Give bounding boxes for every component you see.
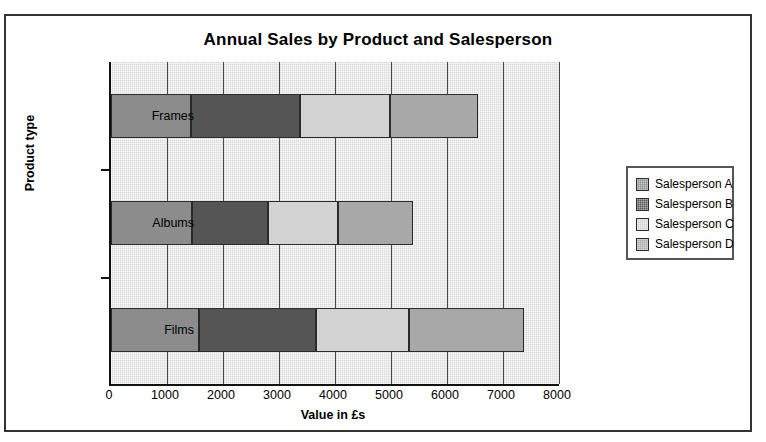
- bar-segment-albums-c[interactable]: [268, 201, 338, 245]
- bar-segment-films-c[interactable]: [316, 308, 410, 352]
- bar-segment-films-b[interactable]: [199, 308, 315, 352]
- y-tick-label-films: Films: [74, 323, 194, 337]
- x-tick-label-8000: 8000: [543, 388, 571, 402]
- legend-item-c[interactable]: Salesperson C: [636, 214, 732, 234]
- x-tick-label-6000: 6000: [431, 388, 459, 402]
- x-tick-label-4000: 4000: [319, 388, 347, 402]
- x-tick-label-5000: 5000: [375, 388, 403, 402]
- x-tick-label-7000: 7000: [487, 388, 515, 402]
- y-tick-mark-2: [101, 277, 109, 279]
- bar-segment-albums-d[interactable]: [338, 201, 413, 245]
- gridline-x-8000: [559, 62, 560, 384]
- x-tick-label-1000: 1000: [151, 388, 179, 402]
- y-tick-label-albums: Albums: [74, 216, 194, 230]
- x-axis-title: Value in £s: [109, 408, 557, 422]
- y-tick-mark-1: [101, 169, 109, 171]
- legend-label: Salesperson D: [655, 237, 734, 251]
- chart-legend: Salesperson ASalesperson BSalesperson CS…: [626, 166, 734, 260]
- y-tick-label-frames: Frames: [74, 109, 194, 123]
- bar-segment-frames-b[interactable]: [191, 94, 300, 138]
- y-axis-title: Product type: [23, 63, 37, 243]
- bar-segment-frames-c[interactable]: [300, 94, 390, 138]
- legend-item-b[interactable]: Salesperson B: [636, 194, 732, 214]
- chart-title: Annual Sales by Product and Salesperson: [6, 30, 750, 50]
- x-tick-label-3000: 3000: [263, 388, 291, 402]
- legend-label: Salesperson B: [655, 197, 733, 211]
- legend-swatch-icon: [636, 218, 649, 231]
- bar-segment-films-d[interactable]: [409, 308, 524, 352]
- bar-segment-frames-d[interactable]: [390, 94, 478, 138]
- legend-swatch-icon: [636, 198, 649, 211]
- bar-segment-albums-b[interactable]: [192, 201, 269, 245]
- x-tick-label-0: 0: [106, 388, 113, 402]
- legend-item-a[interactable]: Salesperson A: [636, 174, 732, 194]
- legend-label: Salesperson A: [655, 177, 732, 191]
- legend-swatch-icon: [636, 178, 649, 191]
- legend-label: Salesperson C: [655, 217, 734, 231]
- legend-item-d[interactable]: Salesperson D: [636, 234, 732, 254]
- legend-swatch-icon: [636, 238, 649, 251]
- x-tick-label-2000: 2000: [207, 388, 235, 402]
